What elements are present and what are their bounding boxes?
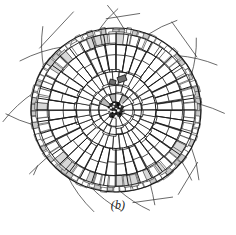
figure-panel-b: (b) bbox=[0, 0, 236, 235]
figure-caption: (b) bbox=[0, 198, 236, 213]
